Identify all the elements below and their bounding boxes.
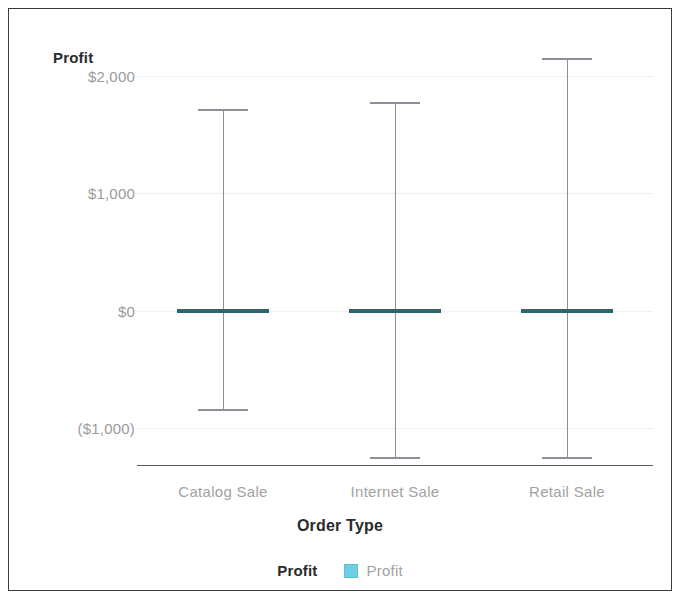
- legend-title: Profit: [277, 562, 317, 579]
- y-axis-tick-label: ($1,000): [35, 419, 135, 436]
- error-bar-cap-upper: [542, 58, 592, 60]
- x-axis-title: Order Type: [9, 517, 671, 535]
- legend-item-label: Profit: [367, 562, 403, 579]
- x-axis-tick-label: Internet Sale: [351, 483, 440, 500]
- chart-container: Profit $2,000$1,000$0($1,000) Catalog Sa…: [8, 8, 672, 591]
- error-bar-cap-lower: [370, 457, 420, 459]
- x-axis-tick-label: Retail Sale: [529, 483, 605, 500]
- plot-area: Profit $2,000$1,000$0($1,000) Catalog Sa…: [9, 9, 671, 590]
- legend-swatch-icon: [344, 564, 358, 578]
- error-bar[interactable]: [309, 9, 481, 590]
- error-bar[interactable]: [137, 9, 309, 590]
- y-axis-tick-labels: $2,000$1,000$0($1,000): [35, 9, 135, 590]
- error-bar-cap-upper: [198, 109, 248, 111]
- legend-items: Profit: [344, 562, 403, 579]
- error-bar-value-marker[interactable]: [349, 309, 441, 313]
- error-bar-value-marker[interactable]: [177, 309, 269, 313]
- error-bar-stem: [223, 109, 224, 409]
- error-bar-value-marker[interactable]: [521, 309, 613, 313]
- x-axis-tick-label: Catalog Sale: [178, 483, 268, 500]
- y-axis-tick-label: $0: [35, 302, 135, 319]
- error-bar-cap-lower: [198, 409, 248, 411]
- y-axis-tick-label: $1,000: [35, 185, 135, 202]
- error-bar-stem: [395, 102, 396, 458]
- error-bar[interactable]: [481, 9, 653, 590]
- error-bar-series: [137, 9, 653, 590]
- x-axis-line: [137, 465, 653, 466]
- legend: Profit Profit: [9, 562, 671, 579]
- error-bar-stem: [567, 58, 568, 457]
- error-bar-cap-lower: [542, 457, 592, 459]
- legend-item[interactable]: Profit: [344, 562, 403, 579]
- y-axis-tick-label: $2,000: [35, 68, 135, 85]
- error-bar-cap-upper: [370, 102, 420, 104]
